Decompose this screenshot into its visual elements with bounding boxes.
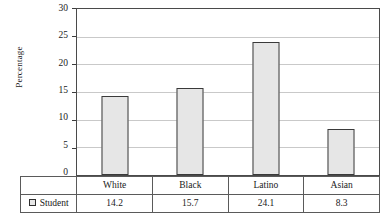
y-axis-title: Percentage	[14, 22, 24, 112]
table-value-asian: 8.3	[304, 195, 380, 213]
table-row-student: Student 14.2 15.7 24.1 8.3	[21, 195, 380, 213]
bar-cell-black	[153, 9, 229, 175]
bar-black[interactable]	[177, 88, 204, 175]
table-header-black: Black	[152, 177, 228, 195]
table-value-white: 14.2	[77, 195, 153, 213]
bar-cell-white	[77, 9, 153, 175]
square-outline-icon	[29, 199, 36, 206]
bar-asian[interactable]	[328, 129, 355, 175]
y-tick-label: 20	[40, 59, 68, 69]
bar-series-student	[77, 9, 379, 175]
table-value-black: 15.7	[152, 195, 228, 213]
y-tick-label: 5	[40, 141, 68, 151]
plot-area	[76, 8, 380, 176]
bar-cell-latino	[228, 9, 304, 175]
y-tick-label: 10	[40, 113, 68, 123]
y-tick-label: 25	[40, 31, 68, 41]
y-tick-label: 30	[40, 4, 68, 14]
chart-figure: Percentage 30 25 20 15 10 5 0	[0, 0, 391, 214]
table-header-white: White	[77, 177, 153, 195]
y-tick-label: 15	[40, 86, 68, 96]
bar-cell-asian	[304, 9, 380, 175]
data-table: White Black Latino Asian Student 14.2 15…	[20, 176, 380, 213]
table-corner-blank	[21, 177, 77, 195]
y-axis-tick-labels: 30 25 20 15 10 5 0	[36, 0, 68, 180]
bar-white[interactable]	[101, 96, 128, 175]
legend-student: Student	[21, 195, 77, 213]
table-header-latino: Latino	[228, 177, 304, 195]
table-value-latino: 24.1	[228, 195, 304, 213]
table-row-categories: White Black Latino Asian	[21, 177, 380, 195]
legend-student-label: Student	[40, 198, 69, 208]
table-header-asian: Asian	[304, 177, 380, 195]
bar-latino[interactable]	[252, 42, 279, 175]
